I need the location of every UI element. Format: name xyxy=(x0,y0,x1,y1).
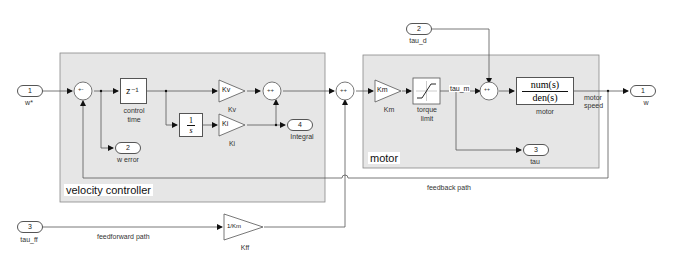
motor-area-title: motor xyxy=(368,152,400,164)
inport-w-star[interactable]: 1 xyxy=(17,85,43,97)
outport-integral[interactable]: 4 xyxy=(287,119,313,131)
motor-tf-label: motor xyxy=(536,108,554,115)
velocity-controller-title: velocity controller xyxy=(64,184,153,196)
signal-feedback-path-label: feedback path xyxy=(427,184,471,191)
inport-tau-d[interactable]: 2 xyxy=(406,23,432,35)
outport-w[interactable]: 1 xyxy=(630,85,656,97)
signal-tau-m-label: tau_m xyxy=(449,85,470,92)
motor-transfer-function-block[interactable]: num(s) den(s) xyxy=(516,77,574,105)
outport-tau-label: tau xyxy=(530,158,540,165)
inport-tau-ff-label: tau_ff xyxy=(20,236,37,243)
gain-ki-label: Ki xyxy=(229,140,235,147)
diagram-canvas xyxy=(0,0,676,263)
outport-w-error-label: w error xyxy=(117,156,139,163)
signal-motor-speed-label-1: motor xyxy=(584,94,602,101)
signal-feedforward-path-label: feedforward path xyxy=(97,233,150,240)
gain-kv-text: Kv xyxy=(222,86,230,93)
sum-ff-signs: ++ xyxy=(340,87,347,93)
outport-w-label: w xyxy=(643,99,648,106)
integrator-block[interactable]: 1 s xyxy=(179,113,203,137)
unit-delay-text: z⁻¹ xyxy=(126,86,139,96)
torque-limit-label-1: torque xyxy=(417,106,437,113)
inport-tau-ff[interactable]: 3 xyxy=(17,221,43,233)
outport-w-error[interactable]: 2 xyxy=(115,142,141,154)
gain-km-text: Km xyxy=(377,86,388,93)
gain-kv-label: Kv xyxy=(228,106,236,113)
inport-w-star-label: w* xyxy=(25,99,33,106)
integrator-den: s xyxy=(180,126,202,135)
signal-motor-speed-label-2: speed xyxy=(584,102,603,109)
sum-dist-signs: ++ xyxy=(484,86,490,92)
gain-ki-text: Ki xyxy=(222,120,228,127)
integrator-num: 1 xyxy=(180,116,202,125)
sum-error-signs: +- xyxy=(78,86,84,92)
gain-kff-text: 1/Km xyxy=(227,223,241,229)
unit-delay-block[interactable]: z⁻¹ xyxy=(120,78,147,104)
motor-tf-denominator: den(s) xyxy=(517,92,573,104)
outport-tau[interactable]: 3 xyxy=(523,144,549,156)
sum-pi-signs: ++ xyxy=(267,87,274,93)
delay-label-1: control xyxy=(123,107,144,114)
torque-limit-label-2: limit xyxy=(421,115,433,122)
gain-kff-label: Kff xyxy=(241,244,249,251)
outport-integral-label: Integral xyxy=(290,133,313,140)
motor-tf-numerator: num(s) xyxy=(517,79,573,91)
inport-tau-d-label: tau_d xyxy=(409,37,427,44)
delay-label-2: time xyxy=(127,116,140,123)
gain-km-label: Km xyxy=(384,106,395,113)
